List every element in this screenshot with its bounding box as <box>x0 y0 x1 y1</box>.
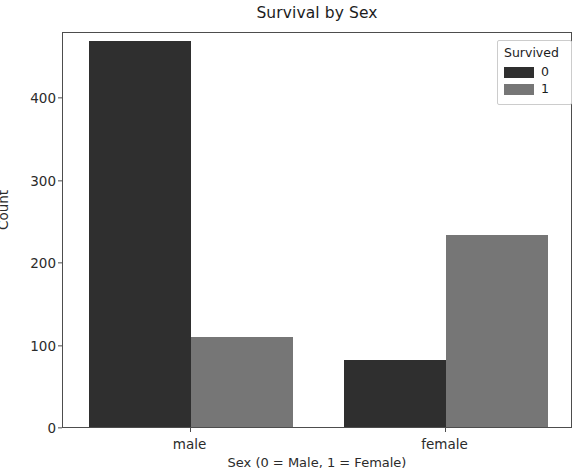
x-axis-label: Sex (0 = Male, 1 = Female) <box>62 455 572 470</box>
legend-label-0: 0 <box>541 66 549 79</box>
legend-label-1: 1 <box>541 83 549 96</box>
legend-item-0[interactable]: 0 <box>504 64 565 81</box>
plot-axes <box>62 32 572 428</box>
y-tick-label-300: 300 <box>0 173 56 189</box>
chart-figure: Survival by Sex 0100200300400 Count male… <box>0 0 580 474</box>
legend: Survived 0 1 <box>497 40 572 105</box>
x-tick-mark-female <box>445 428 446 432</box>
y-tick-mark-300 <box>58 180 62 181</box>
x-tick-label-female: female <box>421 436 468 452</box>
chart-title: Survival by Sex <box>62 4 572 22</box>
y-tick-mark-100 <box>58 345 62 346</box>
bar-male-survived-0 <box>89 41 191 427</box>
bar-female-survived-0 <box>344 360 446 427</box>
y-tick-label-0: 0 <box>0 420 56 436</box>
y-tick-label-100: 100 <box>0 338 56 354</box>
legend-swatch-icon-1 <box>504 84 534 95</box>
x-tick-label-male: male <box>173 436 206 452</box>
legend-swatch-icon-0 <box>504 67 534 78</box>
bar-male-survived-1 <box>191 337 293 427</box>
legend-title: Survived <box>504 45 565 60</box>
y-tick-mark-400 <box>58 97 62 98</box>
plot-area <box>63 33 571 427</box>
x-tick-mark-male <box>190 428 191 432</box>
y-tick-mark-200 <box>58 262 62 263</box>
y-tick-label-400: 400 <box>0 90 56 106</box>
y-tick-label-200: 200 <box>0 255 56 271</box>
legend-item-1[interactable]: 1 <box>504 81 565 98</box>
bar-female-survived-1 <box>446 235 548 427</box>
y-axis-label: Count <box>0 190 11 230</box>
y-tick-mark-0 <box>58 427 62 428</box>
